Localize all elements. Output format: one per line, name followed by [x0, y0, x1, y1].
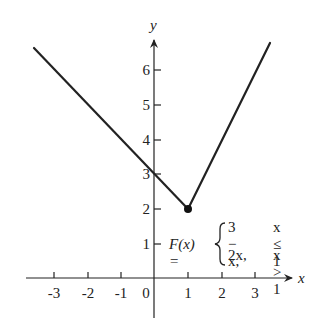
svg-text:-1: -1: [115, 285, 128, 301]
y-ticks: [154, 70, 161, 244]
svg-text:0: 0: [142, 285, 150, 301]
svg-text:2: 2: [143, 201, 151, 217]
svg-text:-2: -2: [82, 285, 95, 301]
svg-text:2: 2: [218, 285, 226, 301]
svg-text:3: 3: [251, 285, 259, 301]
vertex-point: [184, 205, 192, 213]
y-axis-label: y: [148, 17, 157, 33]
svg-text:6: 6: [143, 62, 151, 78]
function-lhs: F(x) =: [169, 236, 195, 270]
case-2-cond: x > 1: [273, 247, 281, 298]
svg-text:-3: -3: [48, 285, 61, 301]
x-tick-labels: -3 -2 -1 0 1 2 3: [48, 285, 259, 301]
svg-text:4: 4: [143, 132, 151, 148]
line-segment-3-minus-x: [34, 48, 188, 209]
svg-text:1: 1: [143, 236, 151, 252]
x-axis-label: x: [297, 270, 305, 286]
case-2-expr: 2x,: [228, 247, 247, 264]
svg-text:1: 1: [184, 285, 192, 301]
brace: [215, 223, 225, 265]
y-tick-labels: 1 2 3 4 5 6: [143, 62, 151, 252]
svg-text:5: 5: [143, 97, 151, 113]
line-segment-2x: [188, 43, 270, 209]
